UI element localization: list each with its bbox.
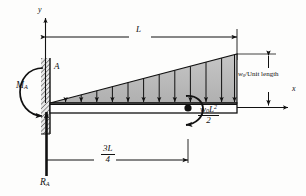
distance-dimension-3L4 [47,139,188,163]
distance-label: 3L 4 [101,144,115,165]
reaction-force-subscript: A [46,180,50,187]
distance-numerator: 3L [101,144,115,155]
load-intensity-dimension [237,54,276,108]
applied-moment-denominator: 2 [198,116,219,126]
reaction-moment-label: MA [16,81,28,91]
span-length-label: L [136,25,141,34]
span-dimension-L [46,29,237,60]
reaction-moment-subscript: A [24,83,28,90]
figure-canvas: y x L A MA RA w0/Unit length w0L2 2 3L 4 [0,0,306,196]
point-a-label: A [54,62,60,71]
y-axis-label: y [38,6,42,14]
distance-fraction: 3L 4 [101,144,115,165]
applied-moment-fraction: w0L2 2 [198,104,219,126]
load-intensity-unit-text: /Unit length [245,70,279,78]
applied-moment-label: w0L2 2 [198,104,219,126]
load-intensity-label: w0/Unit length [238,71,279,79]
reaction-moment-symbol: M [16,80,24,90]
reaction-moment-arc [20,68,43,116]
reaction-force-label: RA [40,178,50,188]
applied-moment-exponent: 2 [214,104,217,110]
applied-moment-numerator: w0L2 [198,104,219,116]
x-axis-label: x [292,85,296,93]
beam-diagram-svg [0,0,306,196]
distance-denominator: 4 [101,155,115,165]
